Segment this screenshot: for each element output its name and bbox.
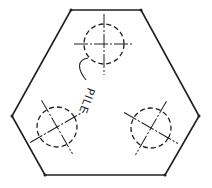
leader-line (80, 58, 89, 80)
pile-cap-diagram: PILE (0, 0, 212, 188)
vertex-dots (11, 9, 201, 177)
pile-top (74, 14, 132, 75)
pile-label: PILE (76, 86, 97, 116)
pile-cap-outline (12, 10, 199, 175)
pile-right (109, 86, 194, 171)
